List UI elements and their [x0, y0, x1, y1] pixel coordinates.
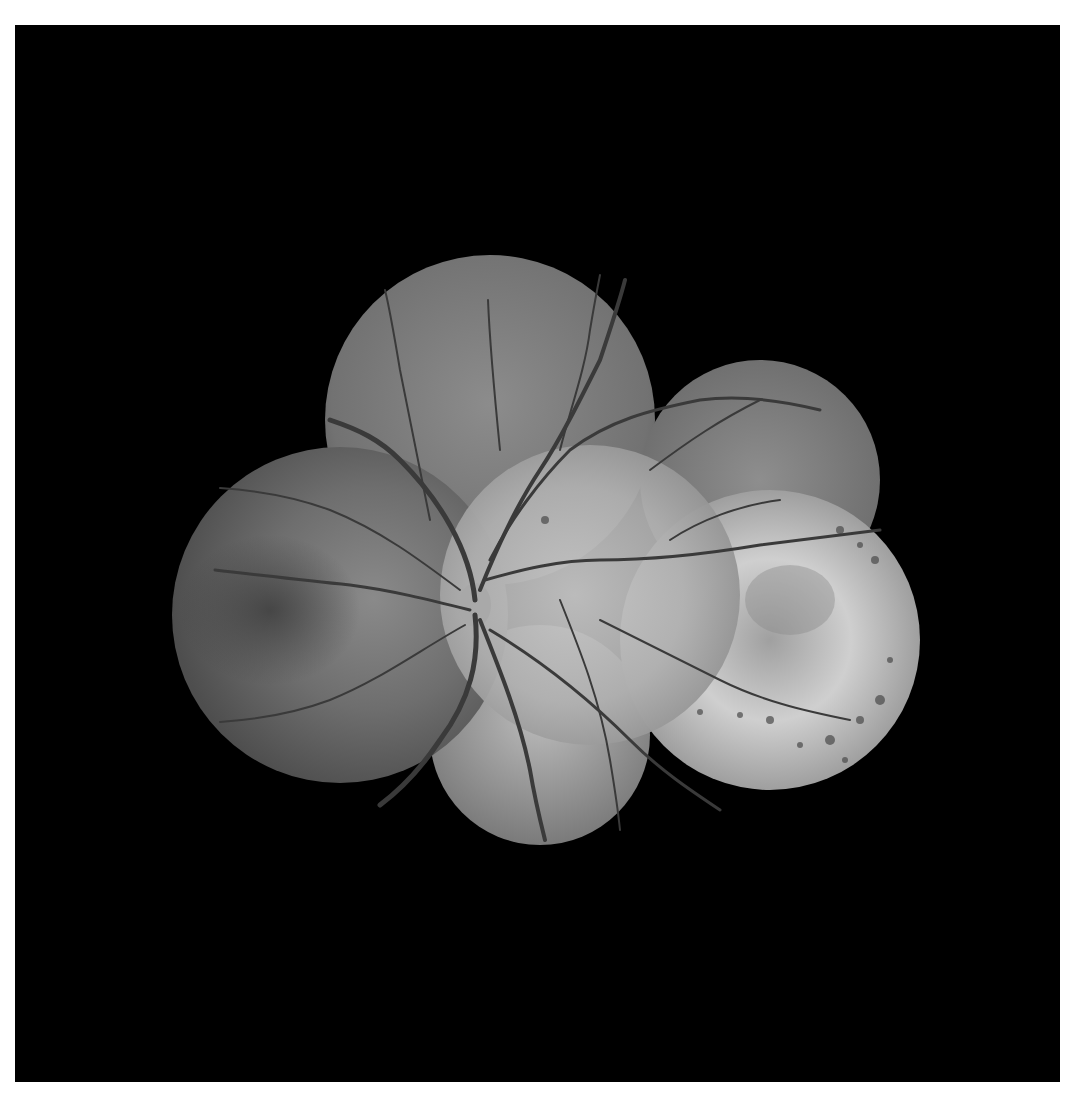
macula-dark-region: [180, 535, 360, 685]
fundus-montage: [0, 0, 1083, 1116]
